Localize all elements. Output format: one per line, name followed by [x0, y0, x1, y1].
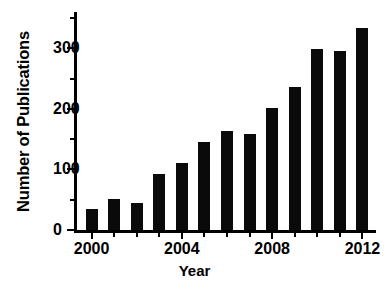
y-minor-tick-350: [70, 17, 74, 19]
bar-2002: [131, 203, 143, 230]
x-minor-tick-2007: [249, 233, 251, 237]
x-tick-label-2000: 2000: [74, 241, 110, 257]
x-minor-tick-2001: [113, 233, 115, 237]
bar-2005: [198, 142, 210, 230]
bar-2004: [176, 163, 188, 230]
x-minor-tick-2009: [294, 233, 296, 237]
y-tick-0: [67, 229, 74, 231]
bar-2003: [153, 174, 165, 230]
x-axis-title: Year: [0, 262, 389, 279]
y-minor-tick-250: [70, 78, 74, 80]
bar-2010: [311, 49, 323, 230]
x-minor-tick-2006: [226, 233, 228, 237]
x-tick-2000: [91, 233, 93, 239]
x-tick-2004: [181, 233, 183, 239]
x-tick-label-2012: 2012: [345, 241, 381, 257]
x-tick-2012: [361, 233, 363, 239]
y-minor-tick-150: [70, 138, 74, 140]
y-tick-label-300: 300: [53, 40, 60, 56]
x-tick-2008: [271, 233, 273, 239]
x-minor-tick-2005: [203, 233, 205, 237]
y-axis-title: Number of Publications: [14, 7, 33, 237]
bar-2007: [244, 134, 256, 230]
y-tick-label-0: 0: [53, 222, 60, 238]
x-minor-tick-2003: [158, 233, 160, 237]
x-minor-tick-2011: [339, 233, 341, 237]
plot-area: 01002003002000200420082012: [78, 12, 376, 230]
bar-2009: [289, 87, 301, 230]
y-tick-label-100: 100: [53, 161, 60, 177]
x-tick-label-2004: 2004: [164, 241, 200, 257]
y-minor-tick-50: [70, 199, 74, 201]
bar-2008: [266, 108, 278, 230]
x-axis-line: [74, 230, 376, 233]
y-tick-label-200: 200: [53, 101, 60, 117]
bar-2006: [221, 131, 233, 230]
bar-2011: [334, 51, 346, 230]
bar-2000: [86, 209, 98, 230]
bars-layer: [78, 12, 376, 230]
x-minor-tick-2002: [136, 233, 138, 237]
x-minor-tick-2010: [316, 233, 318, 237]
publications-bar-chart: Number of Publications 01002003002000200…: [0, 0, 389, 289]
x-tick-label-2008: 2008: [254, 241, 290, 257]
bar-2012: [356, 28, 368, 230]
bar-2001: [108, 199, 120, 230]
